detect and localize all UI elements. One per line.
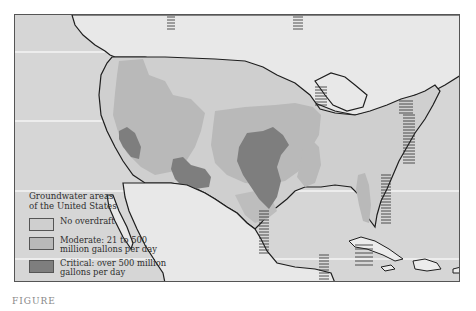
map-legend: Groundwater areas of the United States N… bbox=[29, 191, 169, 282]
map-frame: Groundwater areas of the United States N… bbox=[14, 14, 460, 282]
legend-label-critical-line2: gallons per day bbox=[60, 268, 166, 277]
legend-label-no-overdraft: No overdraft bbox=[60, 217, 115, 226]
legend-label-moderate-line2: million gallons per day bbox=[60, 245, 157, 254]
legend-item-moderate: Moderate: 21 to 500 million gallons per … bbox=[29, 236, 169, 254]
legend-item-no-overdraft: No overdraft bbox=[29, 217, 169, 231]
legend-swatch-critical bbox=[29, 260, 54, 273]
legend-item-critical: Critical: over 500 million gallons per d… bbox=[29, 259, 169, 277]
legend-title-line1: Groundwater areas bbox=[29, 191, 169, 201]
legend-title-line2: of the United States bbox=[29, 201, 169, 211]
legend-title: Groundwater areas of the United States bbox=[29, 191, 169, 211]
legend-swatch-moderate bbox=[29, 237, 54, 250]
figure-caption: FIGURE bbox=[12, 296, 56, 304]
legend-swatch-no-overdraft bbox=[29, 218, 54, 231]
